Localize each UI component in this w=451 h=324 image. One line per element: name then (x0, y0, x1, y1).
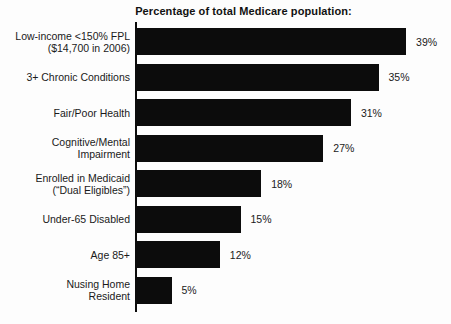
category-label: Under-65 Disabled (0, 213, 130, 225)
bar (137, 99, 351, 126)
category-label-line: Impairment (0, 148, 130, 160)
chart-row: Nusing HomeResident5% (0, 273, 451, 309)
category-label: Age 85+ (0, 249, 130, 261)
bar (137, 135, 323, 162)
chart-row: Enrolled in Medicaid(“Dual Eligibles”)18… (0, 166, 451, 202)
bar-area: 18% (137, 170, 292, 197)
bar-area: 15% (137, 206, 272, 233)
value-label: 12% (230, 249, 251, 261)
chart-row: 3+ Chronic Conditions35% (0, 60, 451, 96)
category-label: Fair/Poor Health (0, 107, 130, 119)
category-label-line: Low-income <150% FPL (0, 30, 130, 42)
chart-row: Low-income <150% FPL($14,700 in 2006)39% (0, 24, 451, 60)
bar (137, 277, 172, 304)
category-label-line: Enrolled in Medicaid (0, 172, 130, 184)
category-label-line: (“Dual Eligibles”) (0, 184, 130, 196)
bar-area: 31% (137, 99, 382, 126)
category-label-line: Nusing Home (0, 278, 130, 290)
chart-row: Under-65 Disabled15% (0, 202, 451, 238)
value-label: 35% (389, 71, 410, 83)
bar (137, 241, 220, 268)
category-label-line: Cognitive/Mental (0, 136, 130, 148)
bar-area: 12% (137, 241, 251, 268)
value-label: 39% (416, 36, 437, 48)
bar-area: 39% (137, 28, 437, 55)
category-label: 3+ Chronic Conditions (0, 71, 130, 83)
value-label: 18% (271, 178, 292, 190)
category-label: Nusing HomeResident (0, 278, 130, 302)
bar-area: 5% (137, 277, 197, 304)
category-label-line: Fair/Poor Health (0, 107, 130, 119)
chart-row: Cognitive/MentalImpairment27% (0, 131, 451, 167)
category-label-line: ($14,700 in 2006) (0, 42, 130, 54)
chart-row: Age 85+12% (0, 237, 451, 273)
category-label: Low-income <150% FPL($14,700 in 2006) (0, 30, 130, 54)
chart-title: Percentage of total Medicare population: (36, 5, 451, 17)
category-label: Cognitive/MentalImpairment (0, 136, 130, 160)
bar (137, 64, 379, 91)
bar-area: 27% (137, 135, 354, 162)
value-label: 27% (333, 142, 354, 154)
value-label: 31% (361, 107, 382, 119)
category-label-line: 3+ Chronic Conditions (0, 71, 130, 83)
value-label: 5% (182, 284, 197, 296)
category-label-line: Age 85+ (0, 249, 130, 261)
value-label: 15% (251, 213, 272, 225)
category-label-line: Under-65 Disabled (0, 213, 130, 225)
medicare-bar-chart: Percentage of total Medicare population:… (0, 0, 451, 324)
bar-area: 35% (137, 64, 410, 91)
chart-row: Fair/Poor Health31% (0, 95, 451, 131)
chart-rows: Low-income <150% FPL($14,700 in 2006)39%… (0, 24, 451, 308)
bar (137, 28, 406, 55)
category-label-line: Resident (0, 290, 130, 302)
bar (137, 170, 261, 197)
bar (137, 206, 241, 233)
category-label: Enrolled in Medicaid(“Dual Eligibles”) (0, 172, 130, 196)
